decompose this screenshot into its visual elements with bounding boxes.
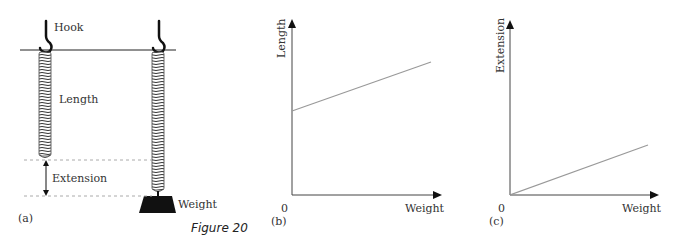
chart-b-line — [292, 62, 431, 111]
hook-icon — [153, 21, 165, 53]
hook-label: Hook — [54, 22, 84, 33]
chart-c-line — [510, 145, 648, 195]
figure-caption: Figure 20 — [191, 222, 248, 234]
weight-block — [139, 196, 176, 213]
extension-arrow-icon — [43, 160, 49, 196]
panel-a-label: (a) — [18, 213, 33, 224]
figure-20: Hook Length Extension Weight (a) Figure … — [0, 0, 679, 248]
length-label: Length — [59, 94, 98, 105]
diagram-graphics — [0, 0, 679, 248]
weight-label: Weight — [178, 199, 217, 210]
spring-unloaded — [39, 52, 51, 158]
spring-loaded — [152, 52, 164, 196]
chart-b-axes — [288, 19, 442, 199]
hook-icon — [40, 21, 52, 53]
chart-c-axes — [506, 20, 659, 199]
panel-c-label: (c) — [489, 216, 504, 227]
chart-c-x-axis-label: Weight — [622, 203, 661, 214]
chart-b-x-axis-label: Weight — [405, 203, 444, 214]
chart-b-origin-label: 0 — [281, 203, 288, 214]
chart-c-y-axis-label: Extension — [495, 18, 506, 73]
extension-label: Extension — [52, 173, 107, 184]
chart-c-origin-label: 0 — [498, 203, 505, 214]
chart-b-y-axis-label: Length — [276, 19, 287, 58]
panel-b-label: (b) — [271, 216, 287, 227]
